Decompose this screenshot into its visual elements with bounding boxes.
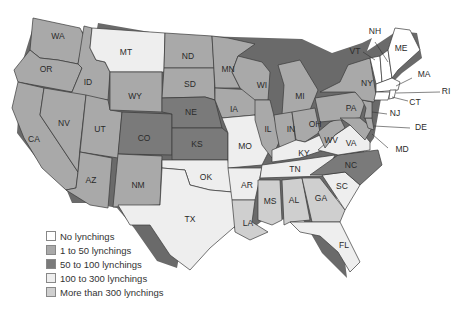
legend-swatch [46,259,56,269]
legend-swatch [46,231,56,241]
label-in: IN [287,124,296,134]
label-az: AZ [86,175,97,185]
label-ct: CT [409,97,420,107]
label-ut: UT [94,124,105,134]
legend-label: 100 to 300 lynchings [60,273,147,284]
label-or: OR [40,64,53,74]
label-nv: NV [58,118,70,128]
legend-swatch [46,287,56,297]
label-me: ME [395,43,408,53]
label-tn: TN [289,164,300,174]
label-ky: KY [298,148,310,158]
label-pa: PA [346,103,357,113]
label-ks: KS [191,139,203,149]
label-tx: TX [185,214,196,224]
label-ny: NY [361,78,373,88]
legend-label: 50 to 100 lynchings [60,259,142,270]
map-legend: No lynchings 1 to 50 lynchings 50 to 100… [46,229,164,299]
state-ct [374,92,390,100]
label-nm: NM [131,180,144,190]
label-il: IL [264,124,271,134]
legend-item-mid: 50 to 100 lynchings [46,257,164,271]
label-wi: WI [257,80,267,90]
legend-swatch [46,245,56,255]
legend-item-high: 100 to 300 lynchings [46,271,164,285]
label-oh: OH [309,119,322,129]
legend-label: 1 to 50 lynchings [60,245,131,256]
label-ok: OK [200,172,213,182]
label-ne: NE [185,107,197,117]
label-co: CO [138,133,151,143]
label-ar: AR [241,180,253,190]
label-ms: MS [264,196,277,206]
legend-item-top: More than 300 lynchings [46,285,164,299]
label-nd: ND [182,51,194,61]
label-vt: VT [350,46,361,56]
legend-item-none: No lynchings [46,229,164,243]
label-nc: NC [345,160,357,170]
label-mi: MI [295,91,304,101]
label-fl: FL [339,240,349,250]
label-mo: MO [238,141,252,151]
label-ca: CA [28,134,40,144]
label-ia: IA [230,104,238,114]
label-wv: WV [324,135,338,145]
label-ri: RI [442,86,451,96]
label-wy: WY [128,91,142,101]
label-md: MD [395,144,408,154]
label-id: ID [84,77,93,87]
legend-label: More than 300 lynchings [60,287,164,298]
label-wa: WA [51,31,65,41]
label-ma: MA [418,69,431,79]
label-sc: SC [336,181,348,191]
label-la: LA [243,218,254,228]
label-al: AL [289,195,300,205]
label-nj: NJ [390,108,400,118]
legend-swatch [46,273,56,283]
label-va: VA [346,138,357,148]
label-mn: MN [221,64,234,74]
label-mt: MT [120,47,132,57]
legend-item-low: 1 to 50 lynchings [46,243,164,257]
legend-label: No lynchings [60,231,114,242]
label-sd: SD [184,79,196,89]
label-de: DE [415,122,427,132]
label-nh: NH [369,26,381,36]
label-ga: GA [315,193,328,203]
